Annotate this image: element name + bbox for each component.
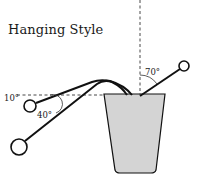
- hanging-style-diagram: Hanging Style 70° 10° 40°: [0, 0, 197, 181]
- hanger-left-long-ring: [11, 139, 27, 155]
- pot: [104, 94, 165, 173]
- angle-label-40: 40°: [37, 110, 52, 120]
- hanger-right-ring: [179, 61, 189, 71]
- angle-label-70: 70°: [145, 67, 160, 77]
- angle-label-10: 10°: [4, 93, 19, 103]
- hanger-left-short-ring: [24, 100, 36, 112]
- diagram-title: Hanging Style: [8, 22, 103, 37]
